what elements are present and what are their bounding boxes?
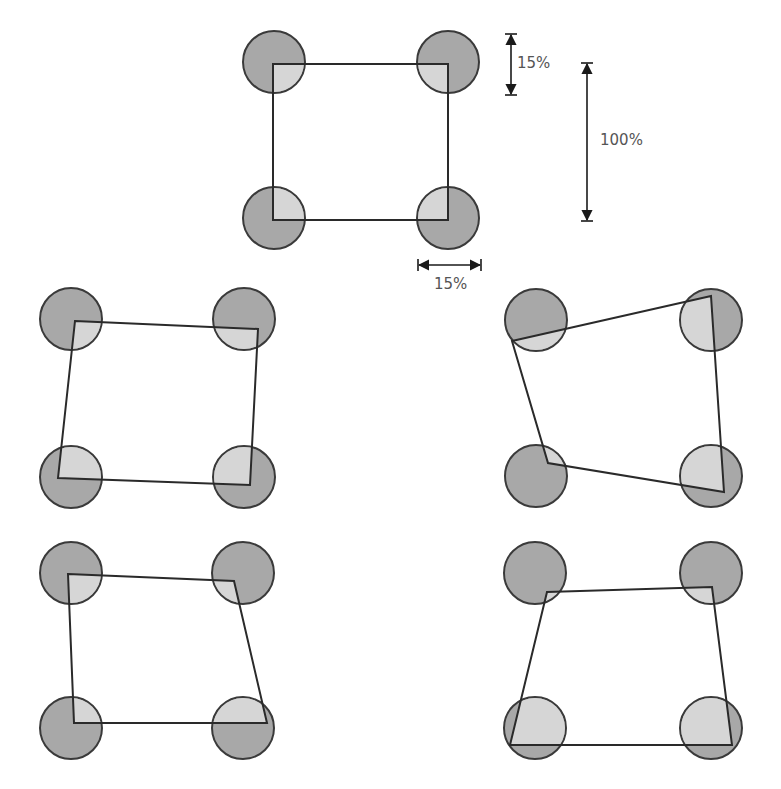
quadrilateral-outline — [273, 64, 448, 220]
label-side-vertical: 100% — [600, 131, 643, 149]
dimension-side-vertical: 100% — [581, 63, 643, 221]
corner-tolerance-circle — [40, 288, 102, 350]
label-corner-vertical: 15% — [517, 54, 550, 72]
panel-bottom-left — [40, 542, 274, 759]
corner-tolerance-circle — [505, 445, 567, 507]
dimension-corner-horizontal: 15% — [418, 259, 481, 293]
panel-reference — [243, 31, 479, 249]
corner-tolerance-circle — [40, 697, 102, 759]
label-corner-horizontal: 15% — [434, 275, 467, 293]
corner-tolerance-circle — [504, 542, 566, 604]
panel-bottom-right — [504, 542, 742, 759]
panel-mid-left — [40, 288, 275, 508]
corner-tolerance-circle — [212, 542, 274, 604]
diagram-canvas: 15% 100% 15% — [0, 0, 781, 789]
panel-mid-right — [505, 289, 742, 507]
dimension-corner-vertical: 15% — [505, 34, 550, 95]
